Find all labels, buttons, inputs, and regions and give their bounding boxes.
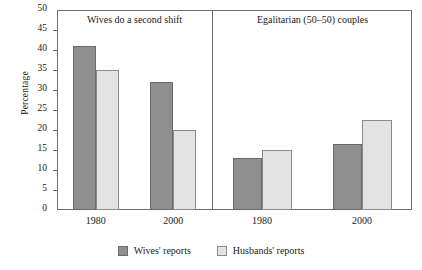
bar-wives-2000 [150,82,173,210]
y-tick-label: 45 [38,23,48,33]
y-tick-label: 30 [38,83,48,93]
y-tick-label: 35 [38,63,48,73]
legend-swatch-wives [118,246,128,256]
x-tick-label: 2000 [332,215,392,226]
y-tick-label: 50 [38,3,48,13]
bar-husbands-1980 [262,150,292,210]
panel-title-left: Wives do a second shift [57,14,212,25]
y-tick-label: 10 [38,163,48,173]
y-tick-label: 0 [42,203,47,213]
bar-chart-figure: Percentage 05101520253035404550 Wives do… [0,0,422,270]
panel-divider [212,10,213,210]
bar-wives-1980 [73,46,96,210]
bar-husbands-2000 [362,120,392,210]
legend-swatch-husbands [217,246,227,256]
y-tick-label: 15 [38,143,48,153]
legend-label: Wives' reports [134,245,191,256]
x-tick-label: 1980 [66,215,126,226]
y-tick-label: 5 [42,183,47,193]
bar-husbands-2000 [173,130,196,210]
y-tick-label: 20 [38,123,48,133]
panel-title-right: Egalitarian (50–50) couples [213,14,412,25]
bar-wives-1980 [233,158,263,210]
y-axis-title: Percentage [20,38,30,148]
bar-wives-2000 [333,144,363,210]
legend-item: Husbands' reports [217,245,305,256]
legend-label: Husbands' reports [233,245,305,256]
bar-husbands-1980 [96,70,119,210]
y-tick-label: 40 [38,43,48,53]
x-tick-label: 2000 [143,215,203,226]
chart-legend: Wives' reportsHusbands' reports [0,245,422,256]
legend-item: Wives' reports [118,245,191,256]
x-tick-label: 1980 [232,215,292,226]
y-tick-label: 25 [38,103,48,113]
